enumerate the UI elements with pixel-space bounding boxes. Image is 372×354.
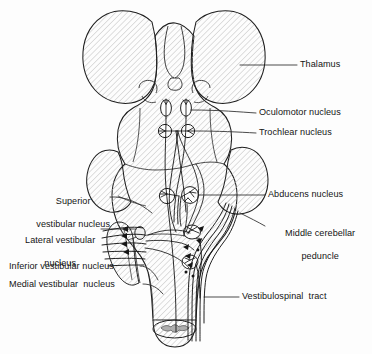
label-middle-cerebellar-peduncle-line1: Middle cerebellar bbox=[285, 228, 355, 238]
leader-peduncle bbox=[240, 213, 265, 226]
label-vestibulospinal-tract: Vestibulospinal tract bbox=[242, 291, 327, 303]
thalamus-left-lobe bbox=[83, 11, 157, 104]
label-middle-cerebellar-peduncle-line2: peduncle bbox=[302, 251, 339, 261]
thalamus-right-lobe bbox=[191, 11, 265, 104]
label-medial-vestibular-nucleus: Medial vestibular nucleus bbox=[9, 279, 115, 291]
label-trochlear-nucleus: Trochlear nucleus bbox=[259, 127, 332, 139]
figure-canvas: Thalamus Oculomotor nucleus Trochlear nu… bbox=[0, 0, 372, 354]
label-abducens-nucleus: Abducens nucleus bbox=[268, 189, 343, 201]
label-lateral-vestibular-nucleus-line1: Lateral vestibular bbox=[25, 235, 95, 245]
lateral-vestibular-nucleus-marker bbox=[135, 227, 145, 240]
label-oculomotor-nucleus: Oculomotor nucleus bbox=[259, 107, 341, 119]
spinal-cord-cross-section bbox=[153, 320, 196, 347]
label-superior-vestibular-nucleus-line1: Superior bbox=[56, 196, 91, 206]
label-thalamus: Thalamus bbox=[300, 59, 340, 71]
label-inferior-vestibular-nucleus: Inferior vestibular nucleus bbox=[9, 261, 114, 273]
label-middle-cerebellar-peduncle: Middle cerebellar peduncle bbox=[263, 216, 367, 274]
